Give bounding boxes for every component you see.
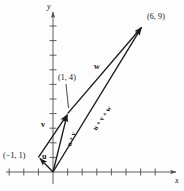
vector-label-w: w	[94, 63, 100, 71]
y-axis-label: y	[47, 3, 51, 11]
vector-label-v: v	[41, 121, 45, 129]
leader-line-point-14	[66, 84, 69, 108]
vector-w-arrow	[68, 27, 142, 113]
point-label-minus1-1: (−1, 1)	[3, 152, 26, 160]
y-axis	[50, 12, 57, 184]
point-label-1-4: (1, 4)	[58, 74, 76, 82]
vector-uvw-arrow	[53, 28, 141, 172]
vector-addition-figure: (6, 9) (1, 4) (−1, 1) x y u v w u + v u …	[0, 0, 184, 191]
x-axis-label: x	[175, 177, 179, 185]
x-axis	[6, 169, 176, 176]
vector-arrows	[38, 27, 141, 172]
vector-label-u: u	[42, 153, 46, 161]
point-label-6-9: (6, 9)	[147, 13, 165, 21]
plot-canvas	[0, 0, 184, 191]
